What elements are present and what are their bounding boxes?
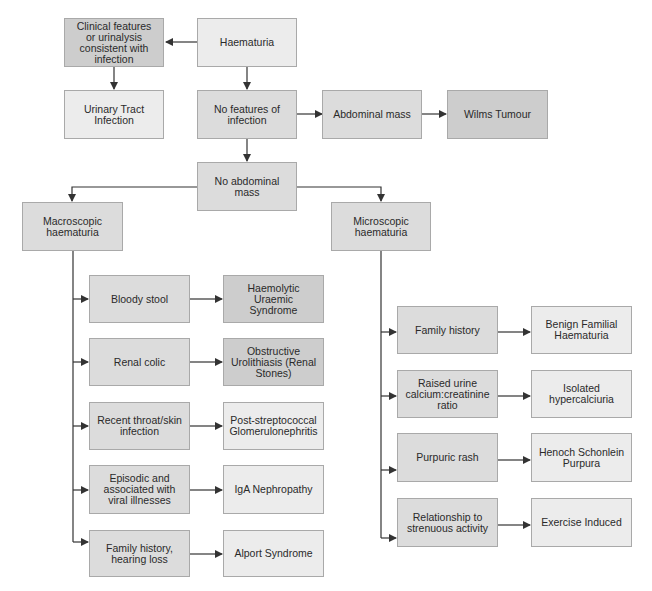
- node-family-hearing-loss: Family history, hearing loss: [89, 530, 190, 577]
- node-hsp: Henoch Schonlein Purpura: [531, 433, 632, 482]
- node-throat-skin-infection: Recent throat/skin infection: [89, 402, 190, 450]
- node-no-abdominal-mass: No abdominal mass: [197, 162, 297, 211]
- node-psgn: Post-streptococcal Glomerulonephritis: [223, 402, 324, 450]
- node-hus: Haemolytic Uraemic Syndrome: [223, 275, 324, 323]
- node-macroscopic-haematuria: Macroscopic haematuria: [22, 202, 123, 251]
- node-strenuous-activity: Relationship to strenuous activity: [397, 498, 498, 547]
- node-microscopic-haematuria: Microscopic haematuria: [331, 202, 431, 251]
- node-episodic-viral: Episodic and associated with viral illne…: [89, 465, 190, 514]
- node-benign-familial-haematuria: Benign Familial Haematuria: [531, 306, 632, 354]
- node-wilms-tumour: Wilms Tumour: [447, 90, 548, 139]
- node-exercise-induced: Exercise Induced: [531, 498, 632, 547]
- node-uti: Urinary Tract Infection: [64, 90, 164, 139]
- node-no-infection: No features of infection: [197, 90, 297, 139]
- node-urolithiasis: Obstructive Urolithiasis (Renal Stones): [223, 338, 324, 386]
- haematuria-flowchart: Clinical features or urinalysis consiste…: [0, 0, 652, 591]
- node-renal-colic: Renal colic: [89, 338, 190, 386]
- node-haematuria: Haematuria: [197, 18, 297, 67]
- node-clinical-infection: Clinical features or urinalysis consiste…: [64, 18, 164, 67]
- node-abdominal-mass: Abdominal mass: [322, 90, 422, 139]
- node-bloody-stool: Bloody stool: [89, 275, 190, 323]
- node-family-history: Family history: [397, 306, 498, 354]
- node-isolated-hypercalciuria: Isolated hypercalciuria: [531, 370, 632, 418]
- node-raised-urine-calcium: Raised urine calcium:creatinine ratio: [397, 370, 498, 418]
- node-purpuric-rash: Purpuric rash: [397, 433, 498, 482]
- node-alport-syndrome: Alport Syndrome: [223, 530, 324, 577]
- node-iga-nephropathy: IgA Nephropathy: [223, 465, 324, 514]
